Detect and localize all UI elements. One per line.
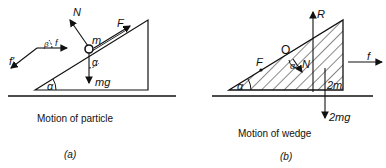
label-external-force-f: f: [367, 51, 370, 62]
label-normal-a: N: [73, 7, 81, 18]
label-base-angle-b: α: [237, 81, 243, 92]
label-f-a: f: [55, 39, 58, 48]
sublabel-a: (a): [64, 150, 76, 160]
figure-b: [212, 12, 382, 118]
sublabel-b: (b): [280, 152, 292, 162]
label-origin-O: O: [281, 44, 290, 56]
f-prime-arrow: [11, 48, 37, 68]
label-beta: β: [44, 41, 49, 49]
label-weight-2mg: 2mg: [329, 112, 350, 123]
label-friction-F-a: F: [117, 18, 124, 29]
label-angle-at-N: α: [290, 62, 295, 71]
particle-mass: [85, 45, 93, 53]
label-reaction-R: R: [317, 9, 325, 20]
base-angle-arc-a: [53, 79, 56, 90]
caption-a: Motion of particle: [37, 114, 113, 124]
label-angle-at-mass: α: [92, 58, 98, 68]
label-base-angle-a: α: [47, 81, 53, 92]
label-mass-m: m: [92, 35, 101, 46]
normal-arrow: [70, 20, 88, 46]
caption-b: Motion of wedge: [238, 129, 311, 139]
label-normal-b: N: [302, 59, 310, 70]
label-wedge-mass-2m: 2m: [327, 80, 342, 91]
label-friction-F-b: F: [256, 57, 263, 68]
friction-point-dot: [259, 68, 262, 71]
label-weight-mg: mg: [95, 77, 110, 88]
label-f-prime: f': [9, 56, 14, 67]
beta-arc: [49, 40, 52, 48]
